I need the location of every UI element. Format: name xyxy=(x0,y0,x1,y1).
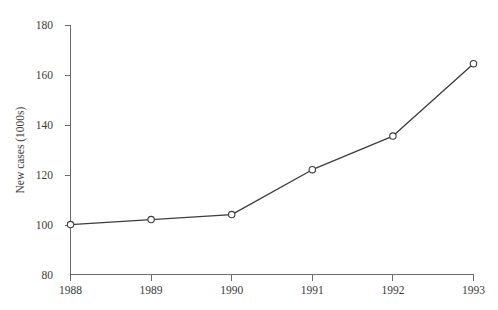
x-tick-label-1992: 1992 xyxy=(381,284,404,296)
data-point-1991 xyxy=(309,167,315,173)
data-point-1990 xyxy=(229,211,235,217)
line-chart: New cases (1000s) 80 100 120 140 160 180… xyxy=(0,0,498,310)
y-tick-label-120: 120 xyxy=(36,169,54,181)
x-tick-label-1993: 1993 xyxy=(462,284,485,296)
chart-figure: New cases (1000s) 80 100 120 140 160 180… xyxy=(0,0,498,310)
y-tick-label-160: 160 xyxy=(36,69,54,81)
y-axis-title: New cases (1000s) xyxy=(14,106,27,193)
series-markers xyxy=(67,60,476,227)
series-line-new-cases xyxy=(71,64,474,225)
data-point-1993 xyxy=(470,60,476,66)
x-tick-label-1988: 1988 xyxy=(59,284,82,296)
x-tick-label-1990: 1990 xyxy=(220,284,243,296)
data-point-1989 xyxy=(148,216,154,222)
y-tick-label-180: 180 xyxy=(36,19,54,31)
y-tick-label-100: 100 xyxy=(36,219,54,231)
y-tick-label-140: 140 xyxy=(36,119,54,131)
x-tick-label-1991: 1991 xyxy=(301,284,324,296)
data-point-1992 xyxy=(390,133,396,139)
y-tick-label-80: 80 xyxy=(42,269,54,281)
data-point-1988 xyxy=(67,221,73,227)
x-tick-label-1989: 1989 xyxy=(140,284,163,296)
